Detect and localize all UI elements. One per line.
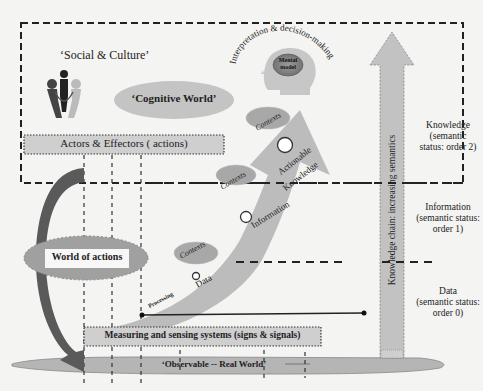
actors-effectors-label: Actors & Effectors ( actions) bbox=[24, 137, 224, 149]
head-icon bbox=[261, 48, 316, 95]
knowledge-chain-label: Knowledge chain: increasing semantics bbox=[387, 135, 397, 286]
mental-model-label: Mental model bbox=[272, 57, 304, 71]
level-information-line1: Information bbox=[410, 202, 483, 213]
mental-model-line2: model bbox=[272, 64, 304, 71]
people-group-icon bbox=[47, 70, 81, 118]
level-data: Data (semantic status: order 0) bbox=[410, 286, 483, 319]
social-culture-label: ‘Social & Culture’ bbox=[60, 48, 149, 63]
level-data-line1: Data bbox=[410, 286, 483, 297]
level-information-line2: (semantic status: bbox=[410, 213, 483, 224]
cognitive-world-label: ‘Cognitive World’ bbox=[120, 92, 228, 104]
mental-model-line1: Mental bbox=[272, 57, 304, 64]
level-data-line3: order 0) bbox=[410, 308, 483, 319]
level-data-line2: (semantic status: bbox=[410, 297, 483, 308]
level-knowledge-line3: status: order 2) bbox=[412, 142, 483, 153]
level-knowledge: Knowledge (semantic status: order 2) bbox=[412, 120, 483, 153]
level-information-line3: order 1) bbox=[410, 224, 483, 235]
level-information: Information (semantic status: order 1) bbox=[410, 202, 483, 235]
level-knowledge-line2: (semantic bbox=[412, 131, 483, 142]
level-knowledge-line1: Knowledge bbox=[412, 120, 483, 131]
measuring-systems-label: Measuring and sensing systems (signs & s… bbox=[84, 330, 321, 340]
world-of-actions-label: World of actions bbox=[45, 251, 129, 262]
observable-world-label: ‘Observable -- Real World’ bbox=[150, 359, 278, 369]
